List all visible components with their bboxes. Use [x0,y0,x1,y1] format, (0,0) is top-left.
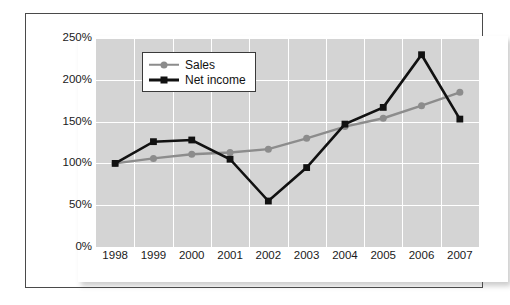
chart-legend: Sales Net income [142,52,256,92]
data-point-marker[interactable] [380,104,387,111]
plot-area: Sales Net income [96,38,479,247]
x-axis-tick-label: 2005 [364,250,402,268]
data-point-marker[interactable] [150,155,157,162]
line-square-marker-icon [149,74,179,86]
data-point-marker[interactable] [188,137,195,144]
y-axis-tick-label: 100% [48,158,92,170]
data-point-marker[interactable] [265,198,272,205]
y-axis-tick-label: 150% [48,116,92,128]
x-axis-tick-label: 2006 [402,250,440,268]
data-point-marker[interactable] [456,89,463,96]
y-axis-tick-label: 0% [48,241,92,253]
data-point-marker[interactable] [303,135,310,142]
series-line [115,92,460,163]
x-axis-tick-label: 2007 [441,250,479,268]
data-point-marker[interactable] [303,164,310,171]
figure-frame: 0%50%100%150%200%250% Sales Net income [25,13,483,288]
line-circle-marker-icon [149,59,179,71]
legend-item-net-income[interactable]: Net income [149,72,246,87]
y-axis-tick-label: 200% [48,74,92,86]
data-point-marker[interactable] [112,160,119,167]
data-point-marker[interactable] [456,116,463,123]
data-point-marker[interactable] [342,121,349,128]
series-sales [112,89,464,167]
y-axis-tick-label: 250% [48,32,92,44]
x-axis-tick-label: 2000 [173,250,211,268]
data-point-marker[interactable] [418,51,425,58]
data-point-marker[interactable] [227,149,234,156]
x-axis-tick-label: 1999 [134,250,172,268]
data-point-marker[interactable] [265,146,272,153]
data-point-marker[interactable] [188,151,195,158]
x-axis-tick-label: 1998 [96,250,134,268]
legend-item-sales[interactable]: Sales [149,57,246,72]
y-axis-tick-label: 50% [48,199,92,211]
x-axis-tick-label: 2002 [249,250,287,268]
data-point-marker[interactable] [418,102,425,109]
data-point-marker[interactable] [380,115,387,122]
legend-label-sales: Sales [185,59,215,71]
x-axis-tick-label: 2003 [287,250,325,268]
data-point-marker[interactable] [227,156,234,163]
data-point-marker[interactable] [150,138,157,145]
x-axis: 1998199920002001200220032004200520062007 [96,250,479,268]
x-axis-tick-label: 2001 [211,250,249,268]
x-axis-tick-label: 2004 [326,250,364,268]
legend-label-net-income: Net income [185,74,246,86]
y-axis: 0%50%100%150%200%250% [40,38,92,247]
